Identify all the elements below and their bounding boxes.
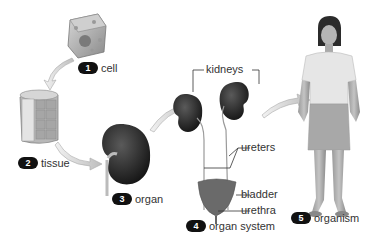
step-4-organ-system-label: 4 organ system — [186, 220, 275, 232]
step-1-cell-label: 1 cell — [78, 62, 118, 74]
step-label-text: organ system — [209, 220, 275, 232]
step-label-text: cell — [101, 62, 118, 74]
step-3-organ-label: 3 organ — [112, 193, 163, 205]
step-number-badge: 5 — [291, 212, 311, 224]
levels-of-organization-diagram: 1 cell 2 tissue 3 organ 4 organ system 5… — [0, 0, 381, 246]
step-number-badge: 1 — [78, 62, 98, 74]
diagram-artwork — [0, 0, 381, 246]
step-5-organism-label: 5 organism — [291, 212, 359, 224]
step-number-badge: 2 — [18, 157, 38, 169]
step-label-text: tissue — [41, 157, 70, 169]
step-number-badge: 4 — [186, 220, 206, 232]
tissue-illustration — [20, 90, 58, 143]
step-2-tissue-label: 2 tissue — [18, 157, 70, 169]
kidney-organ-illustration — [102, 124, 150, 196]
cell-illustration — [68, 14, 106, 58]
human-organism-illustration — [298, 16, 360, 217]
kidneys-label: kidneys — [206, 63, 243, 75]
step-number-badge: 3 — [112, 193, 132, 205]
step-label-text: organism — [314, 212, 359, 224]
step-label-text: organ — [135, 193, 163, 205]
urethra-label: urethra — [241, 204, 276, 216]
ureters-label: ureters — [241, 141, 275, 153]
bladder-label: bladder — [241, 188, 278, 200]
